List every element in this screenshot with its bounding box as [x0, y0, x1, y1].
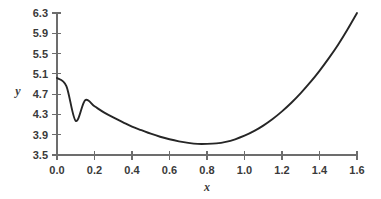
- y-tick-label: 3.9: [33, 129, 48, 141]
- x-tick-label: 1.2: [274, 164, 289, 176]
- x-axis-tick-labels: 0.00.20.40.60.81.01.21.41.6: [49, 164, 364, 176]
- chart-svg: 3.53.94.34.75.15.55.96.3 y 0.00.20.40.60…: [0, 0, 381, 199]
- y-tick-label: 4.7: [33, 88, 48, 100]
- x-axis-title: x: [203, 180, 210, 194]
- y-tick-label: 4.3: [33, 108, 48, 120]
- y-tick-label: 3.5: [33, 149, 48, 161]
- y-tick-label: 5.9: [33, 27, 48, 39]
- x-tick-label: 1.4: [312, 164, 328, 176]
- y-tick-label: 5.1: [33, 68, 48, 80]
- x-tick-label: 0.4: [124, 164, 140, 176]
- x-tick-label: 0.0: [49, 164, 64, 176]
- chart-container: 3.53.94.34.75.15.55.96.3 y 0.00.20.40.60…: [0, 0, 381, 199]
- y-tick-label: 5.5: [33, 48, 48, 60]
- y-tick-label: 6.3: [33, 7, 48, 19]
- x-tick-label: 1.6: [349, 164, 364, 176]
- x-tick-label: 1.0: [237, 164, 252, 176]
- y-axis-title: y: [13, 84, 21, 98]
- x-tick-label: 0.8: [199, 164, 214, 176]
- x-tick-label: 0.2: [87, 164, 102, 176]
- x-tick-label: 0.6: [162, 164, 177, 176]
